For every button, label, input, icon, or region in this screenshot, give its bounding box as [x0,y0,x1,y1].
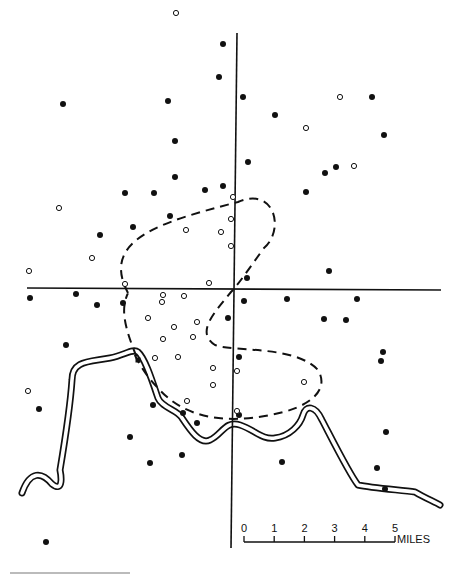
open-point [351,163,356,168]
square-site-marker [136,358,141,363]
open-point [25,388,30,393]
open-point [175,354,180,359]
filled-point [94,302,100,308]
open-point [89,255,94,260]
open-point [206,280,211,285]
open-point [190,334,195,339]
open-point [184,398,189,403]
footer-smudge [10,572,130,574]
horizontal-reference-axis [27,288,441,290]
filled-point [374,465,380,471]
open-point [230,194,235,199]
filled-point [216,74,222,80]
filled-point [120,300,126,306]
filled-point [369,94,375,100]
filled-point [194,420,200,426]
filled-point [73,291,79,297]
filled-point [36,406,42,412]
scale-tick-label: 0 [241,522,247,534]
filled-point [321,316,327,322]
filled-point [172,138,178,144]
open-point [301,379,306,384]
open-point [210,365,215,370]
open-point [183,227,188,232]
filled-point [284,296,290,302]
filled-point [343,317,349,323]
open-point [122,281,127,286]
open-point [181,293,186,298]
filled-point [220,183,226,189]
scale-tick-label: 2 [301,522,307,534]
open-point [160,292,165,297]
filled-point [220,41,226,47]
filled-point [27,295,33,301]
filled-point [122,190,128,196]
filled-point [63,342,69,348]
filled-point [326,268,332,274]
filled-point [127,434,133,440]
open-point [234,408,239,413]
open-point [234,368,239,373]
filled-point [130,224,136,230]
open-point [218,229,223,234]
open-point [228,243,233,248]
filled-point [147,460,153,466]
filled-point [240,94,246,100]
open-point [145,315,150,320]
filled-point [150,402,156,408]
filled-point [172,174,178,180]
filled-point [303,189,309,195]
filled-point [60,101,66,107]
filled-point [225,315,231,321]
scale-bar: 012345MILES [241,522,430,545]
filled-point [202,187,208,193]
filled-point [383,429,389,435]
filled-point [354,296,360,302]
filled-point [245,159,251,165]
open-point [228,216,233,221]
filled-points-layer [27,41,389,545]
scale-tick-label: 3 [332,522,338,534]
filled-point [241,298,247,304]
filled-point [382,486,388,492]
filled-point [180,410,186,416]
open-point [26,268,31,273]
filled-point [167,213,173,219]
scale-tick-label: 4 [362,522,368,534]
filled-point [279,459,285,465]
open-point [210,382,215,387]
distribution-map: 012345MILES [0,0,463,575]
open-point [152,355,157,360]
scale-unit-label: MILES [397,533,430,545]
filled-point [333,164,339,170]
open-point [56,205,61,210]
open-point [337,94,342,99]
filled-point [97,232,103,238]
filled-point [236,354,242,360]
filled-point [43,539,49,545]
open-point [160,336,165,341]
filled-point [179,452,185,458]
filled-point [322,170,328,176]
open-point [159,299,164,304]
filled-point [381,132,387,138]
filled-point [272,112,278,118]
filled-point [244,275,250,281]
open-point [173,10,178,15]
filled-point [378,358,384,364]
open-point [171,324,176,329]
open-point [303,125,308,130]
open-points-layer [25,10,356,413]
filled-point [165,98,171,104]
filled-point [380,349,386,355]
filled-point [151,190,157,196]
open-point [194,319,199,324]
scale-tick-label: 1 [271,522,277,534]
